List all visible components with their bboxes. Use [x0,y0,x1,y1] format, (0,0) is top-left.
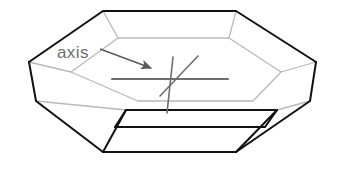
axis-label: axis [57,43,89,62]
figure-container: axis [0,0,348,173]
crystal-diagram: axis [0,0,348,173]
figure-background [0,0,348,173]
